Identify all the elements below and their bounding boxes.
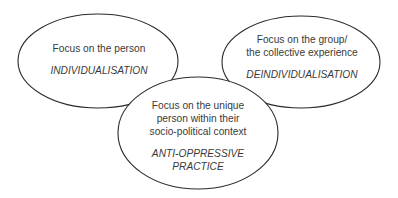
node-term-line-2: PRACTICE: [128, 160, 268, 173]
node-description-line-3: socio-political context: [128, 125, 268, 138]
node-individualisation: Focus on the person INDIVIDUALISATION: [28, 42, 170, 77]
node-term-line-1: ANTI-OPPRESSIVE: [128, 147, 268, 160]
node-deindividualisation: Focus on the group/ the collective exper…: [232, 33, 372, 81]
node-description: Focus on the person: [28, 42, 170, 55]
node-anti-oppressive-practice: Focus on the unique person within their …: [128, 99, 268, 173]
node-description-line-1: Focus on the group/: [232, 33, 372, 46]
node-description-line-2: person within their: [128, 112, 268, 125]
node-term: INDIVIDUALISATION: [28, 64, 170, 77]
node-description-line-1: Focus on the unique: [128, 99, 268, 112]
node-term: DEINDIVIDUALISATION: [232, 68, 372, 81]
node-description-line-2: the collective experience: [232, 46, 372, 59]
